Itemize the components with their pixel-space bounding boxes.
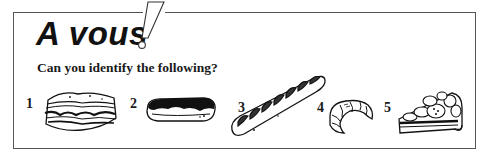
exclamation-icon bbox=[134, 0, 168, 52]
item-number-4: 4 bbox=[317, 100, 324, 116]
eclair-icon bbox=[144, 95, 218, 125]
croissant-icon bbox=[324, 97, 376, 137]
item-number-1: 1 bbox=[26, 96, 33, 112]
item-number-2: 2 bbox=[130, 96, 137, 112]
fruit-tart-slice-icon bbox=[396, 89, 466, 137]
exercise-title: A vous bbox=[36, 15, 148, 53]
lasagne-icon bbox=[42, 88, 120, 134]
item-number-5: 5 bbox=[384, 100, 391, 116]
exercise-prompt: Can you identify the following? bbox=[37, 60, 218, 76]
baguette-icon bbox=[228, 72, 328, 140]
